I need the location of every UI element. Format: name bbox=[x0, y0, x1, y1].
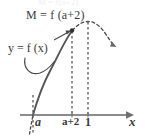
x-tick-label-a-plus-2: a+2 bbox=[62, 116, 79, 127]
x-axis-label: x bbox=[129, 115, 136, 128]
function-label: y = f (x) bbox=[8, 42, 48, 54]
curve-dashed-after-max bbox=[73, 21, 114, 45]
math-figure: M = f(a+2) M = f (a+2) y = f (x bbox=[0, 0, 145, 138]
x-tick-label-one: 1 bbox=[85, 116, 91, 128]
x-tick-label-a: a bbox=[35, 116, 41, 128]
maximum-value-label: M = f (a+2) bbox=[26, 9, 85, 21]
